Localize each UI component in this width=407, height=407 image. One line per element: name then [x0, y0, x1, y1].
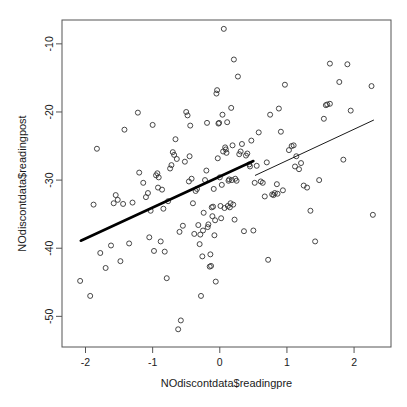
data-point: [232, 217, 237, 222]
data-point: [370, 212, 375, 217]
right-segment-fit: [255, 120, 373, 175]
plot-frame: [62, 20, 391, 347]
data-point: [103, 265, 108, 270]
data-point: [188, 123, 193, 128]
data-point: [282, 82, 287, 87]
data-point: [215, 156, 220, 161]
data-points-group: [78, 26, 376, 331]
data-point: [198, 293, 203, 298]
data-point: [262, 194, 267, 199]
data-point: [164, 276, 169, 281]
x-axis-title: NOdiscontdata$readingpre: [161, 377, 292, 389]
data-point: [308, 208, 313, 213]
data-point: [78, 278, 83, 283]
y-axis-title: NOdiscontdata$readingpost: [16, 115, 28, 251]
x-tick-label: -1: [148, 356, 157, 368]
data-point: [239, 141, 244, 146]
data-point: [230, 143, 235, 148]
data-point: [213, 279, 218, 284]
y-tick-label: -40: [43, 240, 55, 255]
data-point: [274, 182, 279, 187]
left-segment-fit: [81, 161, 254, 241]
data-point: [229, 105, 234, 110]
data-point: [268, 112, 273, 117]
y-tick-label: -50: [43, 309, 55, 324]
data-point: [200, 254, 205, 259]
data-point: [197, 242, 202, 247]
data-point: [235, 74, 240, 79]
data-point: [241, 229, 246, 234]
data-point: [190, 201, 195, 206]
x-tick-label: 2: [351, 356, 357, 368]
data-point: [156, 185, 161, 190]
data-point: [211, 186, 216, 191]
data-point: [158, 239, 163, 244]
data-point: [264, 160, 269, 165]
data-point: [254, 163, 259, 168]
y-axis-tick-labels: -10-20-30-40-50: [43, 36, 55, 324]
data-point: [127, 241, 132, 246]
data-point: [182, 159, 187, 164]
data-point: [109, 243, 114, 248]
data-point: [256, 130, 261, 135]
data-point: [91, 202, 96, 207]
y-tick-label: -20: [43, 104, 55, 119]
data-point: [219, 216, 224, 221]
data-point: [192, 231, 197, 236]
y-tick-label: -10: [43, 36, 55, 51]
data-point: [94, 146, 99, 151]
data-point: [266, 257, 271, 262]
data-point: [317, 178, 322, 183]
data-point: [178, 318, 183, 323]
data-point: [205, 120, 210, 125]
x-tick-label: -2: [81, 356, 90, 368]
data-point: [162, 249, 167, 254]
data-point: [221, 26, 226, 31]
data-point: [292, 164, 297, 169]
x-tick-label: 1: [284, 356, 290, 368]
data-point: [147, 235, 152, 240]
data-point: [173, 137, 178, 142]
data-point: [130, 200, 135, 205]
data-point: [249, 138, 254, 143]
data-point: [161, 206, 166, 211]
data-point: [369, 84, 374, 89]
data-point: [137, 170, 142, 175]
data-point: [321, 116, 326, 121]
plot-frame-group: [62, 20, 391, 347]
data-point: [196, 223, 201, 228]
data-point: [251, 228, 256, 233]
data-point: [213, 218, 218, 223]
data-point: [208, 252, 213, 257]
data-point: [121, 201, 126, 206]
y-axis-tick-group: [56, 44, 62, 317]
scatter-plot-figure: -2-1012 -10-20-30-40-50 NOdiscontdata$re…: [0, 0, 407, 407]
data-point: [113, 193, 118, 198]
data-point: [135, 110, 140, 115]
x-axis-tick-group: [86, 347, 355, 353]
data-point: [88, 293, 93, 298]
data-point: [276, 106, 281, 111]
data-point: [115, 197, 120, 202]
data-point: [201, 210, 206, 215]
data-point: [141, 180, 146, 185]
data-point: [341, 157, 346, 162]
data-point: [348, 108, 353, 113]
data-point: [280, 188, 285, 193]
data-point: [145, 191, 150, 196]
data-point: [299, 161, 304, 166]
data-point: [252, 180, 257, 185]
data-point: [220, 112, 225, 117]
data-point: [180, 223, 185, 228]
data-point: [98, 250, 103, 255]
data-point: [219, 182, 224, 187]
data-point: [174, 156, 179, 161]
data-point: [225, 120, 230, 125]
data-point: [176, 327, 181, 332]
data-point: [345, 62, 350, 67]
x-axis-tick-labels: -2-1012: [81, 356, 357, 368]
y-tick-label: -30: [43, 172, 55, 187]
data-point: [215, 88, 220, 93]
data-point: [187, 154, 192, 159]
data-point: [118, 259, 123, 264]
